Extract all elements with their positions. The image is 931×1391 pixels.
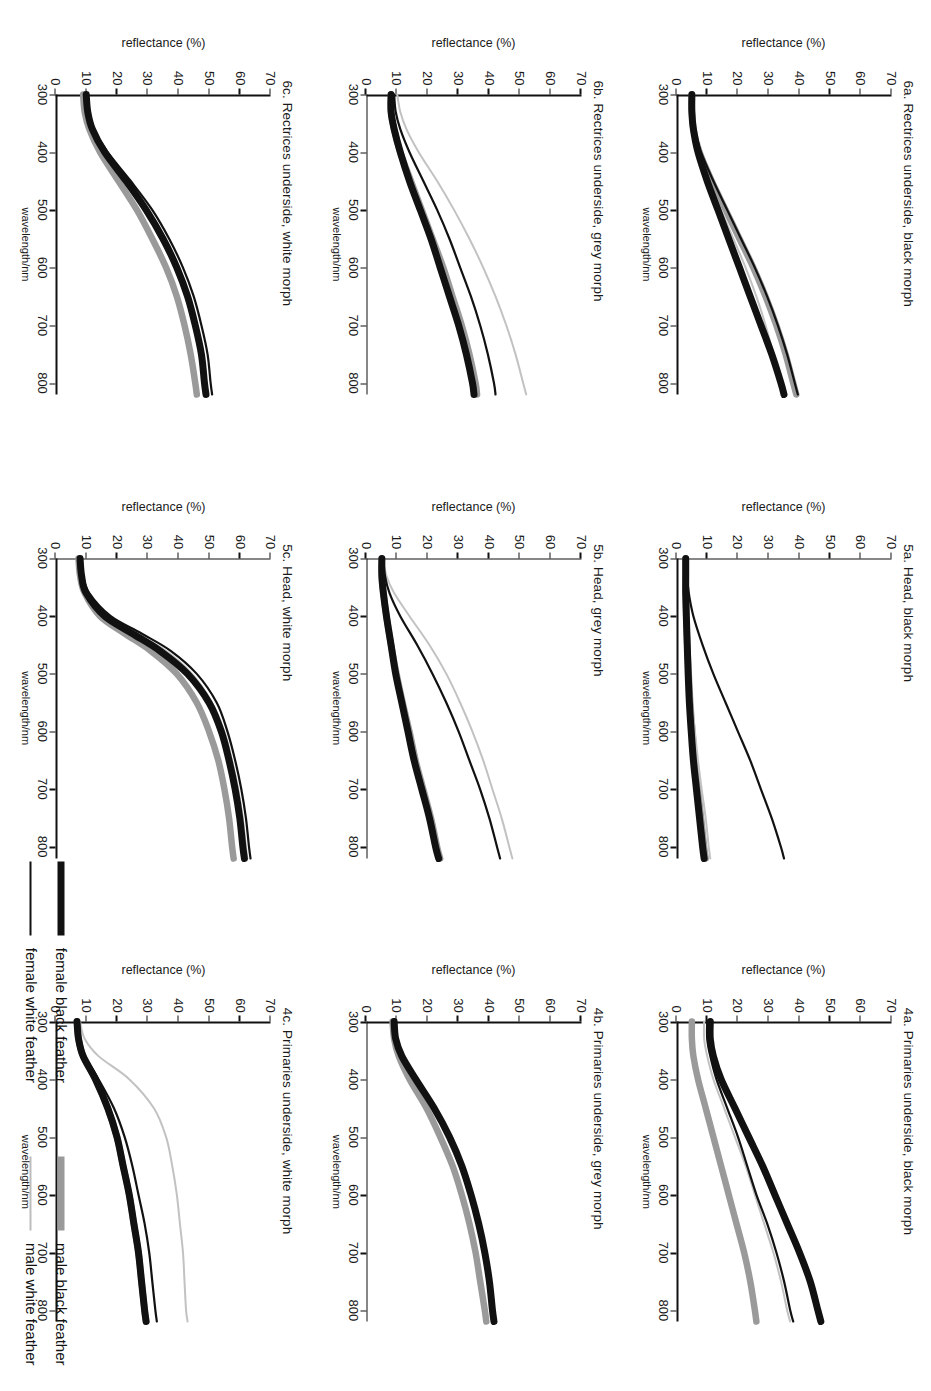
x-tick (670, 267, 676, 268)
x-axis-label: wavelength/nm (330, 207, 342, 281)
plot-area: 010203040506070300400500600700800reflect… (55, 1021, 270, 1321)
x-tick (49, 731, 55, 732)
plot-area: 010203040506070300400500600700800reflect… (366, 1021, 581, 1321)
x-tick (670, 383, 676, 384)
x-tick (360, 846, 366, 847)
y-tick (115, 552, 116, 558)
x-axis-label: wavelength/nm (19, 207, 31, 281)
y-axis-label: reflectance (%) (431, 499, 515, 513)
y-tick (85, 1015, 86, 1021)
x-tick (670, 1310, 676, 1311)
y-tick-label: 60 (233, 998, 246, 1012)
x-tick (670, 673, 676, 674)
series-group (55, 1021, 270, 1321)
x-tick-label: 400 (656, 1068, 669, 1090)
series-group (366, 1021, 581, 1321)
y-axis-label: reflectance (%) (741, 499, 825, 513)
y-tick (518, 552, 519, 558)
y-tick-label: 20 (110, 534, 123, 548)
x-tick (360, 1194, 366, 1195)
x-tick (360, 94, 366, 95)
y-tick-label: 50 (202, 534, 215, 548)
y-tick-label: 20 (731, 534, 744, 548)
y-tick (238, 1015, 239, 1021)
y-tick-label: 30 (762, 998, 775, 1012)
x-tick-label: 800 (656, 372, 669, 394)
y-tick-label: 40 (482, 71, 495, 85)
panel-title: 6c. Rectrices underside, white morph (279, 80, 294, 306)
x-tick-label: 400 (656, 141, 669, 163)
x-tick-label: 800 (35, 372, 48, 394)
x-tick-label: 800 (346, 1299, 359, 1321)
panel-title: 6b. Rectrices underside, grey morph (590, 80, 605, 301)
panel-title: 5a. Head, black morph (900, 544, 915, 682)
y-tick-label: 10 (700, 998, 713, 1012)
y-tick (115, 88, 116, 94)
x-tick-label: 300 (346, 83, 359, 105)
panel-5c: 5c. Head, white morph0102030405060703004… (20, 498, 294, 874)
y-tick-label: 40 (172, 998, 185, 1012)
y-tick-label: 20 (731, 998, 744, 1012)
y-tick (859, 1015, 860, 1021)
y-tick (426, 1015, 427, 1021)
y-tick (487, 88, 488, 94)
y-tick (146, 552, 147, 558)
x-tick-label: 800 (346, 372, 359, 394)
x-tick-label: 700 (656, 778, 669, 800)
y-tick (579, 88, 580, 94)
y-tick-label: 30 (141, 71, 154, 85)
y-tick (518, 88, 519, 94)
y-axis-label: reflectance (%) (741, 35, 825, 49)
x-tick (670, 325, 676, 326)
legend-group-0: female black featherfemale white feather (22, 861, 69, 1082)
x-tick-label: 700 (346, 1241, 359, 1263)
legend-item: female white feather (22, 861, 39, 1082)
y-tick (798, 1015, 799, 1021)
y-tick-label: 50 (513, 534, 526, 548)
y-tick-label: 20 (731, 71, 744, 85)
x-tick-label: 300 (656, 1010, 669, 1032)
x-tick (49, 383, 55, 384)
y-tick-label: 0 (359, 78, 372, 85)
x-tick (670, 731, 676, 732)
x-tick-label: 300 (35, 83, 48, 105)
y-tick (456, 552, 457, 558)
x-tick-label: 600 (35, 256, 48, 278)
x-tick (670, 1194, 676, 1195)
y-tick (767, 88, 768, 94)
x-tick (49, 267, 55, 268)
legend-groups: female black featherfemale white feather… (22, 861, 69, 1365)
x-tick-label: 600 (35, 720, 48, 742)
x-tick (360, 1310, 366, 1311)
x-tick-label: 700 (35, 314, 48, 336)
y-tick-label: 60 (543, 998, 556, 1012)
y-tick-label: 30 (451, 71, 464, 85)
legend-label: female white feather (22, 947, 39, 1082)
y-axis-label: reflectance (%) (431, 962, 515, 976)
x-tick-label: 600 (656, 1184, 669, 1206)
x-tick (360, 383, 366, 384)
y-tick (518, 1015, 519, 1021)
y-tick (238, 88, 239, 94)
y-tick-label: 50 (823, 998, 836, 1012)
x-axis-label: wavelength/nm (330, 671, 342, 745)
y-tick (798, 88, 799, 94)
y-tick (364, 552, 365, 558)
y-tick (177, 1015, 178, 1021)
y-tick (487, 552, 488, 558)
plot-area: 010203040506070300400500600700800reflect… (676, 94, 891, 394)
y-tick-label: 70 (885, 534, 898, 548)
y-tick-label: 60 (543, 534, 556, 548)
x-tick-label: 700 (656, 314, 669, 336)
y-tick (579, 1015, 580, 1021)
x-tick-label: 300 (346, 547, 359, 569)
plot-area: 010203040506070300400500600700800reflect… (55, 94, 270, 394)
plot-area: 010203040506070300400500600700800reflect… (366, 94, 581, 394)
x-tick-label: 500 (35, 199, 48, 221)
legend-swatch-icon (57, 1156, 64, 1230)
x-tick-label: 400 (346, 141, 359, 163)
x-tick-label: 600 (656, 256, 669, 278)
y-tick-label: 40 (482, 534, 495, 548)
legend-label: male white feather (22, 1242, 39, 1365)
legend-item: female black feather (52, 861, 69, 1082)
